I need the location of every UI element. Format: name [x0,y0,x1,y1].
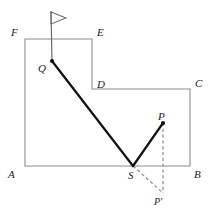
vertex-label-s: S [128,170,134,181]
vertex-label-f: F [11,27,18,38]
diagram-canvas [0,0,214,213]
vertex-label-c: C [195,78,202,89]
flag-pennant-icon [51,12,66,24]
geometry-diagram: F E Q D C P A S B P′ [0,0,214,213]
dashed-segment-s-pprime [133,166,163,193]
vertex-label-a: A [8,169,15,180]
vertex-label-b: B [194,169,201,180]
segment-s-p [133,123,163,166]
point-marker-q [50,59,54,63]
vertex-label-p: P [158,111,165,122]
vertex-label-p-prime: P′ [154,196,162,207]
vertex-label-e: E [97,27,104,38]
vertex-label-d: D [97,79,105,90]
vertex-label-q: Q [38,63,46,74]
region-outline-abcdef [25,39,190,166]
